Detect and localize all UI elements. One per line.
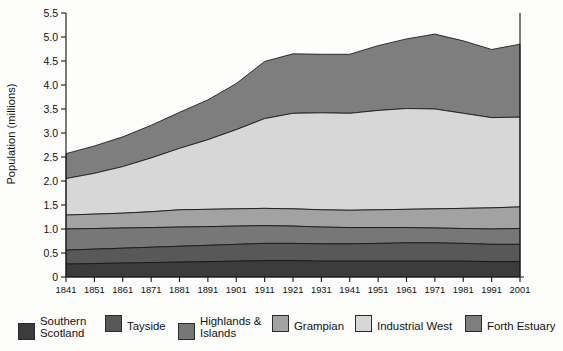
y-tick-label: 5.5 [43, 7, 58, 19]
legend-label: Forth Estuary [487, 320, 555, 332]
chart-screenshot: Population (millions) 00.51.01.52.02.53.… [0, 0, 563, 351]
legend-swatch-icon [18, 323, 35, 340]
y-tick-label: 3.5 [43, 103, 58, 115]
x-tick-label: 1911 [255, 284, 275, 295]
plot-area: Population (millions) 00.51.01.52.02.53.… [0, 0, 563, 300]
legend-label: Highlands & Islands [200, 315, 261, 340]
x-tick-label: 1871 [141, 284, 162, 295]
x-tick-label: 2001 [510, 284, 531, 295]
y-tick-label: 2.0 [43, 175, 58, 187]
legend-swatch-icon [178, 323, 195, 340]
legend-item-tayside[interactable]: Tayside [105, 315, 166, 332]
legend-swatch-icon [355, 315, 372, 332]
stacked-area-chart: 00.51.01.52.02.53.03.54.04.55.05.5184118… [0, 0, 563, 300]
y-tick-label: 1.0 [43, 223, 58, 235]
legend-item-forth-estuary[interactable]: Forth Estuary [465, 315, 555, 332]
x-tick-label: 1861 [112, 284, 133, 295]
legend-item-grampian[interactable]: Grampian [272, 315, 344, 332]
x-tick-label: 1941 [339, 284, 360, 295]
y-tick-label: 0 [52, 271, 58, 283]
chart-legend: Southern ScotlandTaysideHighlands & Isla… [0, 303, 563, 351]
x-tick-label: 1981 [453, 284, 474, 295]
x-tick-label: 1901 [226, 284, 247, 295]
x-tick-label: 1961 [396, 284, 417, 295]
legend-label: Tayside [127, 320, 166, 332]
y-tick-label: 4.5 [43, 55, 58, 67]
x-tick-label: 1991 [481, 284, 502, 295]
x-tick-label: 1881 [169, 284, 190, 295]
legend-label: Grampian [294, 320, 344, 332]
y-tick-label: 5.0 [43, 31, 58, 43]
legend-swatch-icon [105, 315, 122, 332]
x-tick-label: 1851 [84, 284, 105, 295]
y-tick-label: 2.5 [43, 151, 58, 163]
x-tick-label: 1951 [368, 284, 389, 295]
y-tick-label: 3.0 [43, 127, 58, 139]
y-tick-label: 1.5 [43, 199, 58, 211]
y-tick-label: 4.0 [43, 79, 58, 91]
x-tick-label: 1971 [424, 284, 445, 295]
legend-swatch-icon [465, 315, 482, 332]
x-tick-label: 1921 [283, 284, 304, 295]
legend-label: Industrial West [377, 320, 452, 332]
y-tick-label: 0.5 [43, 247, 58, 259]
legend-item-southern-scotland[interactable]: Southern Scotland [18, 315, 86, 340]
legend-label: Southern Scotland [40, 315, 86, 340]
x-tick-label: 1891 [197, 284, 218, 295]
x-tick-label: 1841 [56, 284, 77, 295]
legend-item-industrial-west[interactable]: Industrial West [355, 315, 452, 332]
area-band-southern-scotland [66, 261, 520, 277]
legend-item-highlands-islands[interactable]: Highlands & Islands [178, 315, 261, 340]
legend-swatch-icon [272, 315, 289, 332]
x-tick-label: 1931 [311, 284, 332, 295]
